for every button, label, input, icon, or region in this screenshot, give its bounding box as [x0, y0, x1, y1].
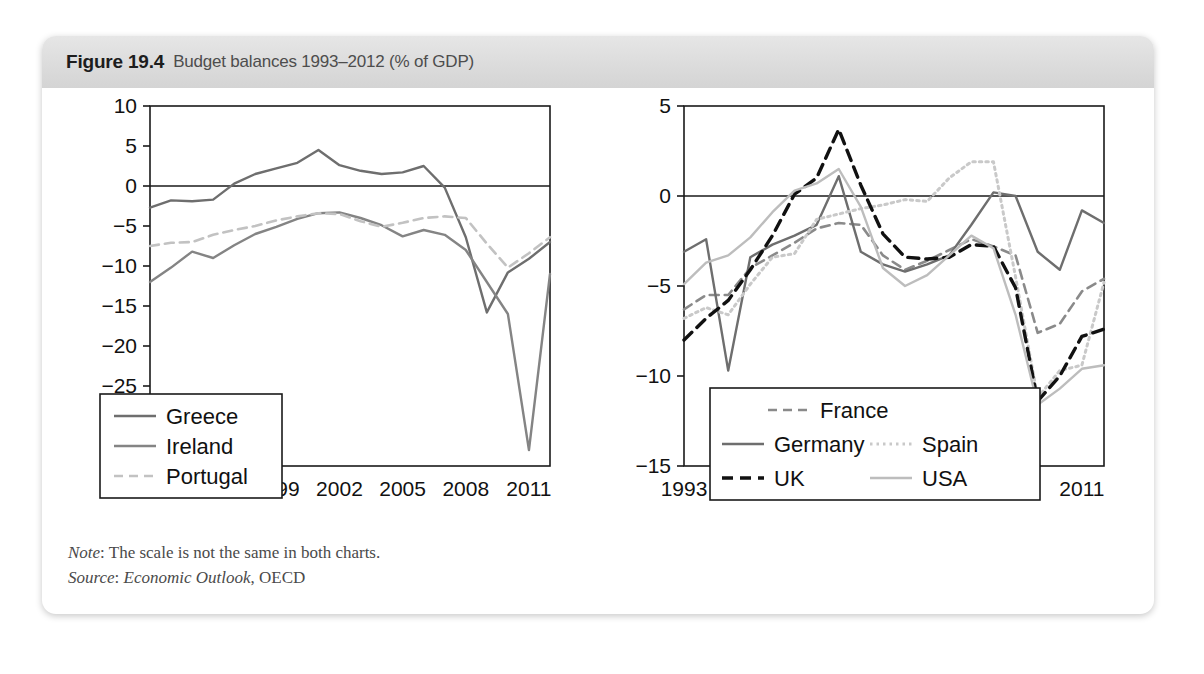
x-tick-label: 2008 — [442, 477, 489, 500]
figure-title: Budget balances 1993–2012 (% of GDP) — [173, 52, 474, 72]
source-colon: : — [115, 568, 124, 587]
chart-left-peripheral: 1050−5−10−15−20−25−30−351993199619992002… — [42, 88, 598, 548]
figure-card: Figure 19.4 Budget balances 1993–2012 (%… — [42, 36, 1154, 614]
right-chart-svg: 50−5−10−151993199619992002200520082011Fr… — [598, 88, 1154, 548]
legend-label-france: France — [820, 398, 888, 423]
note-text: : The scale is not the same in both char… — [100, 543, 380, 562]
legend-label-uk: UK — [774, 466, 805, 491]
source-publication: Economic Outlook — [124, 568, 251, 587]
x-tick-label: 1993 — [661, 477, 708, 500]
legend: FranceGermanySpainUKUSA — [710, 388, 1040, 500]
y-tick-label: 10 — [114, 94, 137, 117]
y-tick-label: 0 — [125, 174, 137, 197]
legend: GreeceIrelandPortugal — [100, 394, 282, 498]
y-tick-label: −5 — [113, 214, 137, 237]
source-label: Source — [68, 568, 115, 587]
series-line-portugal — [150, 213, 550, 267]
left-chart-svg: 1050−5−10−15−20−25−30−351993199619992002… — [42, 88, 598, 548]
legend-label-portugal: Portugal — [166, 464, 248, 489]
y-tick-label: −15 — [101, 294, 137, 317]
chart-right-core: 50−5−10−151993199619992002200520082011Fr… — [598, 88, 1154, 548]
legend-label-germany: Germany — [774, 432, 864, 457]
charts-row: 1050−5−10−15−20−25−30−351993199619992002… — [42, 88, 1154, 548]
y-tick-label: −10 — [635, 364, 671, 387]
source-org: , OECD — [251, 568, 306, 587]
y-tick-label: −20 — [101, 334, 137, 357]
source-line: Source: Economic Outlook, OECD — [68, 565, 868, 590]
y-tick-label: −10 — [101, 254, 137, 277]
x-tick-label: 2011 — [1059, 477, 1104, 500]
figure-number: Figure 19.4 — [66, 51, 164, 73]
y-tick-label: 5 — [125, 134, 137, 157]
legend-label-ireland: Ireland — [166, 434, 233, 459]
figure-notes: Note: The scale is not the same in both … — [68, 540, 868, 590]
x-tick-label: 2002 — [316, 477, 363, 500]
series-line-uk — [684, 129, 1104, 401]
y-tick-label: 5 — [659, 94, 671, 117]
legend-label-usa: USA — [922, 466, 968, 491]
y-tick-label: −15 — [635, 454, 671, 477]
note-line: Note: The scale is not the same in both … — [68, 540, 868, 565]
x-tick-label: 2011 — [506, 477, 551, 500]
legend-label-greece: Greece — [166, 404, 238, 429]
figure-header: Figure 19.4 Budget balances 1993–2012 (%… — [42, 36, 1154, 88]
y-tick-label: −5 — [647, 274, 671, 297]
y-tick-label: 0 — [659, 184, 671, 207]
figure-page: Figure 19.4 Budget balances 1993–2012 (%… — [0, 0, 1204, 674]
x-tick-label: 2005 — [379, 477, 426, 500]
legend-label-spain: Spain — [922, 432, 978, 457]
note-label: Note — [68, 543, 100, 562]
